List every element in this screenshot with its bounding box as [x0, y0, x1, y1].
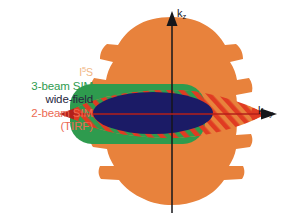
figure-container: kz kx,y I5S 3-beam SIM wide-field 2-beam…: [0, 0, 285, 221]
wide-field-region: [93, 92, 213, 134]
otf-diagram-canvas: [0, 0, 285, 221]
